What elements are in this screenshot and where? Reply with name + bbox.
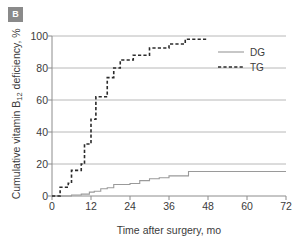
x-tick-label-36: 36 [149, 200, 189, 212]
x-tick-label-60: 60 [227, 200, 267, 212]
y-tick-label-80: 80 [14, 62, 48, 74]
y-tick-label-40: 40 [14, 126, 48, 138]
y-tick-label-60: 60 [14, 94, 48, 106]
y-axis-tick-marks [48, 36, 52, 196]
legend: DGTG [218, 47, 265, 73]
x-tick-label-12: 12 [71, 200, 111, 212]
series-line-tg [52, 39, 208, 196]
x-tick-label-72: 72 [266, 200, 300, 212]
figure-panel-b: B Cumulative vitamin B12 deficiency, % 0… [0, 0, 300, 247]
series-line-dg [52, 172, 286, 196]
x-tick-label-0: 0 [32, 200, 72, 212]
y-tick-label-20: 20 [14, 158, 48, 170]
legend-label-tg: TG [250, 62, 264, 73]
x-axis-label: Time after surgery, mo [52, 224, 286, 236]
legend-label-dg: DG [250, 47, 265, 58]
x-tick-label-48: 48 [188, 200, 228, 212]
y-tick-label-100: 100 [14, 30, 48, 42]
x-tick-label-24: 24 [110, 200, 150, 212]
